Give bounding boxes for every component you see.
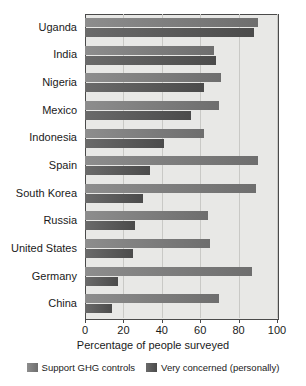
bar-group	[85, 97, 277, 125]
x-tick-label-40: 40	[147, 324, 177, 336]
category-label-spain: Spain	[0, 159, 77, 171]
x-tick-mark-100	[277, 319, 278, 323]
bar-group	[85, 207, 277, 235]
bar-group	[85, 69, 277, 97]
bar-group	[85, 42, 277, 70]
x-tick-label-80: 80	[224, 324, 254, 336]
legend-label-2: Very concerned (personally)	[161, 362, 279, 373]
bar-group	[85, 152, 277, 180]
category-label-south-korea: South Korea	[0, 187, 77, 199]
category-label-germany: Germany	[0, 270, 77, 282]
x-tick-mark-80	[239, 319, 240, 323]
bar-group	[85, 290, 277, 318]
bar-nigeria-series1	[85, 73, 221, 82]
bar-india-series2	[85, 56, 216, 65]
x-tick-mark-0	[85, 319, 86, 323]
x-tick-label-60: 60	[185, 324, 215, 336]
legend-entry-2: Very concerned (personally)	[146, 362, 279, 373]
legend-swatch-1	[27, 363, 38, 372]
x-axis-title: Percentage of people surveyed	[0, 339, 306, 351]
bar-chart-figure: UgandaIndiaNigeriaMexicoIndonesiaSpainSo…	[0, 0, 306, 386]
bar-uganda-series1	[85, 18, 258, 27]
bar-south-korea-series2	[85, 194, 143, 203]
bar-mexico-series1	[85, 101, 219, 110]
category-label-united-states: United States	[0, 242, 77, 254]
x-tick-mark-60	[200, 319, 201, 323]
category-label-india: India	[0, 48, 77, 60]
bar-mexico-series2	[85, 111, 191, 120]
category-label-russia: Russia	[0, 214, 77, 226]
category-label-china: China	[0, 297, 77, 309]
category-label-indonesia: Indonesia	[0, 131, 77, 143]
bar-germany-series2	[85, 277, 118, 286]
bar-united-states-series2	[85, 249, 133, 258]
category-label-nigeria: Nigeria	[0, 76, 77, 88]
x-tick-mark-20	[123, 319, 124, 323]
category-label-mexico: Mexico	[0, 104, 77, 116]
bar-nigeria-series2	[85, 83, 204, 92]
bar-group	[85, 180, 277, 208]
bar-group	[85, 263, 277, 291]
legend-label-1: Support GHG controls	[42, 362, 135, 373]
bar-russia-series2	[85, 221, 135, 230]
bar-group	[85, 14, 277, 42]
bar-germany-series1	[85, 267, 252, 276]
bar-spain-series1	[85, 156, 258, 165]
bar-indonesia-series2	[85, 139, 164, 148]
bar-indonesia-series1	[85, 129, 204, 138]
bar-india-series1	[85, 46, 214, 55]
bar-china-series1	[85, 294, 219, 303]
bar-united-states-series1	[85, 239, 210, 248]
bar-group	[85, 125, 277, 153]
legend-swatch-2	[146, 363, 157, 372]
category-label-uganda: Uganda	[0, 21, 77, 33]
x-tick-mark-40	[162, 319, 163, 323]
legend-entry-1: Support GHG controls	[27, 362, 135, 373]
gridline-100	[277, 14, 278, 318]
bar-russia-series1	[85, 211, 208, 220]
bar-china-series2	[85, 304, 112, 313]
x-tick-label-100: 100	[262, 324, 292, 336]
bar-group	[85, 235, 277, 263]
bar-south-korea-series1	[85, 184, 256, 193]
bar-spain-series2	[85, 166, 150, 175]
x-tick-label-20: 20	[108, 324, 138, 336]
bar-uganda-series2	[85, 28, 254, 37]
chart-legend: Support GHG controlsVery concerned (pers…	[0, 362, 306, 373]
x-tick-label-0: 0	[70, 324, 100, 336]
